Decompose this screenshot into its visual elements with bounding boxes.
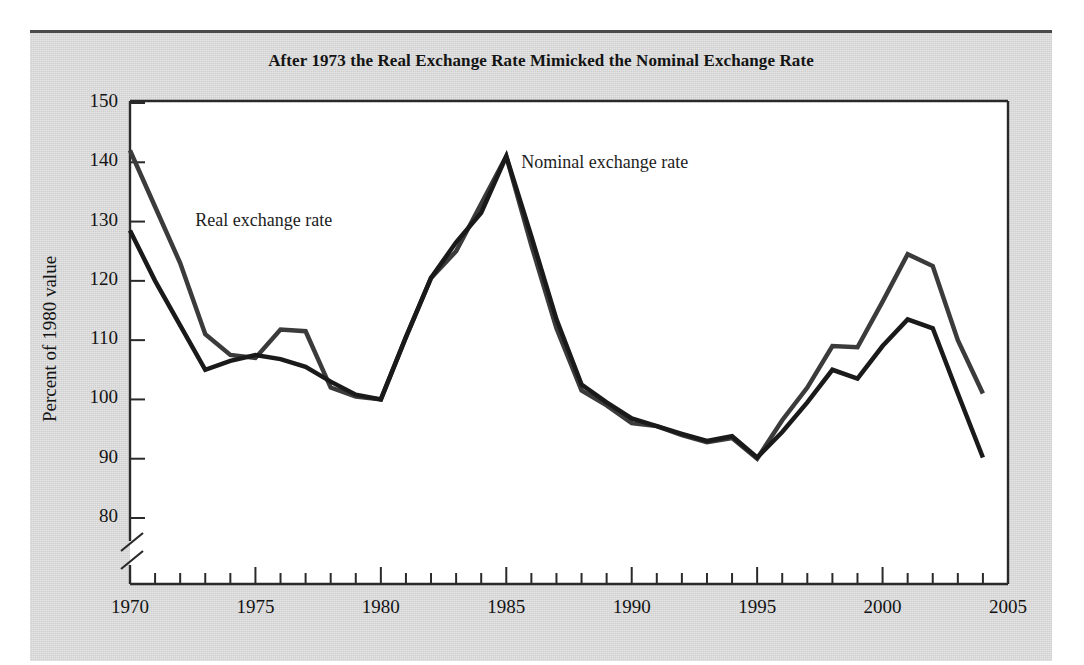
chart-svg [30,33,1052,661]
y-tick-label-90: 90 [58,446,118,468]
annotation-nominal-exchange-rate: Nominal exchange rate [521,152,688,173]
axis-break-mark-upper [121,533,143,551]
x-tick-label-1995: 1995 [717,596,797,618]
y-tick-label-120: 120 [58,268,118,290]
annotation-real-exchange-rate: Real exchange rate [195,210,332,231]
y-tick-label-100: 100 [58,386,118,408]
series-group [130,150,983,458]
x-tick-label-2000: 2000 [843,596,923,618]
series-line-nominal [130,150,983,458]
x-tick-label-1980: 1980 [341,596,421,618]
chart-figure: After 1973 the Real Exchange Rate Mimick… [0,0,1084,665]
y-tick-label-140: 140 [58,149,118,171]
axis-break-mark-lower [121,551,143,569]
chart-panel: After 1973 the Real Exchange Rate Mimick… [30,30,1052,661]
x-tick-label-1970: 1970 [90,596,170,618]
y-tick-label-130: 130 [58,209,118,231]
series-line-real [130,156,983,457]
x-tick-label-1990: 1990 [592,596,672,618]
x-tick-label-2005: 2005 [968,596,1048,618]
x-tick-label-1985: 1985 [466,596,546,618]
y-tick-label-110: 110 [58,327,118,349]
y-tick-label-150: 150 [58,90,118,112]
chart-title: After 1973 the Real Exchange Rate Mimick… [30,51,1052,71]
y-tick-label-80: 80 [58,505,118,527]
x-tick-label-1975: 1975 [215,596,295,618]
chart-svg-wrapper [30,33,1052,661]
